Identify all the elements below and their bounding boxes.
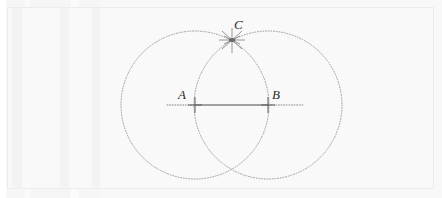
figure-canvas: A B C — [0, 0, 442, 198]
plus-cross-icon-a — [188, 97, 202, 113]
geometry-drawing — [0, 0, 442, 198]
point-label-a: A — [178, 88, 186, 101]
point-label-c: C — [234, 18, 243, 31]
point-label-b: B — [272, 88, 280, 101]
center-dot-c — [229, 38, 235, 42]
